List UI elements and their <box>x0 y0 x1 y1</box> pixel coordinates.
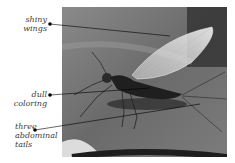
label-shiny-wings: shiny wings <box>23 15 47 33</box>
leader-line-tails <box>35 104 200 130</box>
leader-line-coloring <box>50 88 150 95</box>
label-dull-coloring: dull coloring <box>0 90 47 108</box>
label-three-abdominal-tails: three abdominal tails <box>15 122 57 149</box>
leader-line-wings <box>50 24 170 36</box>
